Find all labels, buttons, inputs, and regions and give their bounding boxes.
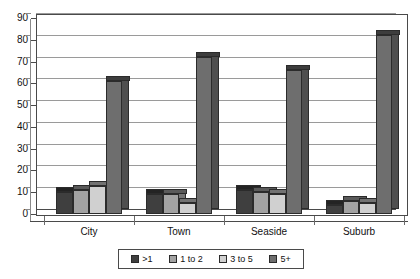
bar-suburb->1 <box>326 205 343 214</box>
y-tick-mark-depth <box>25 144 31 145</box>
gridline-80 <box>36 35 396 36</box>
y-axis-line <box>36 14 37 216</box>
bar-city-5+ <box>106 81 123 214</box>
x-axis-separator <box>314 216 315 225</box>
legend-item-5+[interactable]: 5+ <box>269 255 290 264</box>
bar-seaside-3-to-5 <box>269 194 286 214</box>
bar-side-face <box>211 52 219 209</box>
y-tick-mark <box>31 40 37 41</box>
y-tick-mark-depth <box>25 165 31 166</box>
x-axis-separator <box>44 216 45 225</box>
y-tick-label: 30 <box>2 144 28 154</box>
x-axis-line <box>30 221 408 222</box>
y-tick-mark <box>31 170 37 171</box>
y-tick-label: 80 <box>2 35 28 45</box>
bar-city->1 <box>56 192 73 214</box>
y-tick-label: 20 <box>2 165 28 175</box>
x-category-label-suburb: Suburb <box>314 226 404 237</box>
legend-swatch-icon <box>219 255 227 263</box>
y-tick-mark <box>31 62 37 63</box>
y-tick-mark-depth <box>25 187 31 188</box>
x-axis-separator <box>404 216 405 225</box>
y-tick-mark <box>31 149 37 150</box>
x-axis-separator <box>224 216 225 225</box>
y-tick-label: 10 <box>2 187 28 197</box>
legend-label: >1 <box>142 255 152 264</box>
bar-town-5+ <box>196 57 213 214</box>
bar-side-face <box>301 65 309 209</box>
y-tick-mark-depth <box>25 35 31 36</box>
y-tick-mark-depth <box>25 209 31 210</box>
y-tick-mark-depth <box>25 122 31 123</box>
y-tick-mark <box>31 127 37 128</box>
bar-seaside-1-to-2 <box>253 192 270 214</box>
y-tick-mark-depth <box>25 57 31 58</box>
bar-seaside->1 <box>236 190 253 214</box>
y-tick-mark <box>31 83 37 84</box>
y-tick-label: 70 <box>2 57 28 67</box>
y-tick-label: 40 <box>2 122 28 132</box>
bar-town-3-to-5 <box>179 203 196 214</box>
bar-side-face <box>391 30 399 209</box>
x-category-label-town: Town <box>134 226 224 237</box>
legend-item-1-to-2[interactable]: 1 to 2 <box>169 255 203 264</box>
x-category-label-seaside: Seaside <box>224 226 314 237</box>
legend-swatch-icon <box>169 255 177 263</box>
legend-item->1[interactable]: >1 <box>131 255 152 264</box>
x-axis-separator <box>134 216 135 225</box>
y-axis-depth-line <box>30 19 31 221</box>
y-tick-mark <box>31 18 37 19</box>
legend-label: 1 to 2 <box>180 255 203 264</box>
bar-city-3-to-5 <box>89 186 106 214</box>
y-tick-label: 50 <box>2 100 28 110</box>
bar-town-1-to-2 <box>163 194 180 214</box>
bar-suburb-1-to-2 <box>343 201 360 214</box>
chart-legend: >11 to 23 to 55+ <box>118 249 304 269</box>
y-tick-label: 60 <box>2 78 28 88</box>
legend-item-3-to-5[interactable]: 3 to 5 <box>219 255 253 264</box>
y-tick-mark <box>31 192 37 193</box>
legend-label: 5+ <box>280 255 290 264</box>
y-tick-mark-depth <box>25 13 31 14</box>
bar-chart: 9080706050403020100 CityTownSeasideSubur… <box>0 0 420 279</box>
legend-label: 3 to 5 <box>230 255 253 264</box>
gridline-90 <box>36 13 396 14</box>
bar-town->1 <box>146 194 163 214</box>
y-tick-mark <box>31 214 37 215</box>
x-category-label-city: City <box>44 226 134 237</box>
legend-swatch-icon <box>131 255 139 263</box>
y-tick-label: 90 <box>2 13 28 23</box>
legend-swatch-icon <box>269 255 277 263</box>
y-tick-label: 0 <box>2 209 28 219</box>
bar-city-1-to-2 <box>73 190 90 214</box>
y-tick-mark <box>31 105 37 106</box>
y-tick-mark-depth <box>25 78 31 79</box>
bar-seaside-5+ <box>286 70 303 214</box>
bar-side-face <box>121 76 129 209</box>
bar-suburb-3-to-5 <box>359 203 376 214</box>
y-tick-mark-depth <box>25 100 31 101</box>
bar-suburb-5+ <box>376 35 393 214</box>
